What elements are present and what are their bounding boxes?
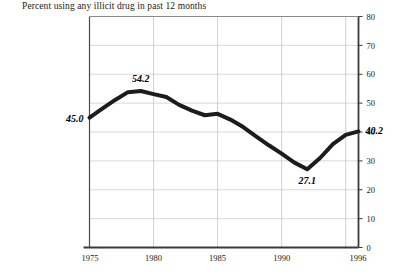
- x-tick-label: 1996: [350, 253, 367, 263]
- y-tick-label: 50: [367, 98, 376, 108]
- x-tick-label: 1975: [82, 253, 99, 263]
- x-tick-label: 1980: [145, 253, 162, 263]
- y-tick-label: 10: [367, 214, 376, 224]
- y-tick-label: 80: [367, 12, 376, 22]
- horizontal-gridlines: [90, 45, 359, 218]
- x-tick-label: 1985: [209, 253, 226, 263]
- x-tick-label: 1990: [273, 253, 290, 263]
- line-chart-plot: 01020304050607080 19751980198519901996 4…: [0, 0, 395, 275]
- chart-container: Percent using any illicit drug in past 1…: [0, 0, 395, 275]
- y-tick-label: 60: [367, 69, 376, 79]
- point-label: 54.2: [132, 73, 150, 84]
- data-point-annotations: 45.054.227.140.2: [65, 73, 383, 186]
- x-axis-tick-labels: 19751980198519901996: [82, 253, 367, 263]
- point-label: 45.0: [65, 113, 84, 124]
- point-label: 27.1: [298, 175, 317, 186]
- y-tick-label: 0: [367, 243, 371, 253]
- point-label: 40.2: [365, 125, 384, 136]
- y-tick-label: 70: [367, 41, 376, 51]
- y-tick-label: 20: [367, 185, 376, 195]
- y-tick-label: 30: [367, 156, 376, 166]
